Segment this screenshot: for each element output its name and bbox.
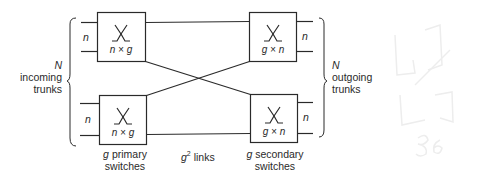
trunks-label: trunks bbox=[10, 83, 62, 95]
secondary-top-dims: g × n bbox=[249, 44, 297, 55]
links-caption: g2 links bbox=[181, 148, 215, 163]
secondary-word: secondary bbox=[255, 148, 303, 160]
primary-g: g bbox=[103, 148, 109, 160]
switch-icon bbox=[114, 108, 132, 124]
switch-icon bbox=[264, 25, 282, 41]
switch-icon bbox=[265, 107, 283, 123]
secondary-g: g bbox=[246, 148, 252, 160]
right-brace-icon bbox=[319, 18, 327, 137]
incoming-label: incoming bbox=[10, 71, 62, 83]
switching-network-diagram: N incoming trunks n n n × g n × g g × n … bbox=[0, 0, 484, 179]
left-brace-icon bbox=[67, 18, 76, 146]
switch-icon bbox=[112, 25, 130, 41]
trunks-label: trunks bbox=[332, 83, 361, 95]
output-n-label: n bbox=[303, 111, 309, 123]
link-bottom-bottom bbox=[147, 134, 251, 135]
primary-bottom-dims: n × g bbox=[99, 127, 147, 138]
background-sketch bbox=[395, 25, 453, 156]
outgoing-label: outgoing bbox=[332, 71, 372, 83]
link-top-top bbox=[146, 22, 250, 23]
secondary-bottom-dims: g × n bbox=[250, 126, 298, 137]
primary-top-dims: n × g bbox=[97, 44, 145, 55]
secondary-caption: g secondary bbox=[242, 148, 308, 160]
input-n-label: n bbox=[85, 113, 91, 125]
primary-switches-label: switches bbox=[96, 160, 154, 172]
secondary-switches-label: switches bbox=[242, 160, 308, 172]
links-exponent: 2 bbox=[187, 150, 191, 157]
links-word: links bbox=[194, 151, 215, 163]
output-n-label: n bbox=[302, 30, 308, 42]
primary-word: primary bbox=[112, 148, 147, 160]
primary-caption: g primary bbox=[96, 148, 154, 160]
right-N-label: N bbox=[332, 59, 340, 71]
left-N-label: N bbox=[40, 59, 62, 71]
input-n-label: n bbox=[83, 31, 89, 43]
